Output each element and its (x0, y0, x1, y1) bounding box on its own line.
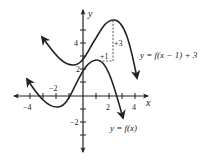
curve-g (42, 20, 137, 78)
vertical-shift-label: +3 (114, 39, 123, 48)
x-axis-label: x (145, 97, 151, 108)
x-tick-label-4: 4 (132, 103, 136, 112)
y-axis-label: y (87, 8, 93, 19)
y-tick-label-4: 4 (74, 39, 78, 48)
x-tick-label-neg4: −4 (23, 103, 32, 112)
x-tick-label-2: 2 (106, 103, 110, 112)
y-tick-label-2: 2 (76, 65, 80, 74)
curve-g-label: y = f(x − 1) + 3 (139, 50, 198, 60)
y-tick-label-neg2: −2 (70, 118, 79, 127)
horizontal-shift-label: +1 (100, 52, 109, 61)
x-tick-label-neg2: −2 (49, 84, 58, 93)
curve-f-label: y = f(x) (109, 123, 137, 133)
graph: y x −4 −2 2 4 −2 2 4 +1 +3 y = f(x − 1) … (0, 0, 218, 163)
